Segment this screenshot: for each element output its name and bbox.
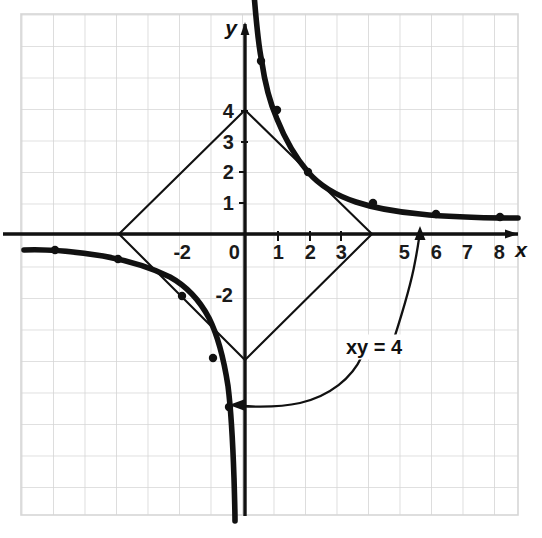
x-tick-label-0: 0 [229, 242, 240, 262]
y-tick-label-neg2: -2 [216, 285, 233, 305]
y-tick-label-4: 4 [223, 101, 234, 121]
curve-equation-label: xy = 4 [342, 335, 406, 360]
graph-canvas [0, 0, 542, 538]
y-axis-label: y [225, 17, 237, 38]
x-tick-label-8: 8 [494, 242, 505, 262]
x-tick-label-2: 2 [305, 242, 316, 262]
y-tick-label-1: 1 [223, 193, 234, 213]
x-tick-label-neg2: -2 [174, 242, 191, 262]
x-axis-label: x [515, 239, 527, 260]
x-tick-label-1: 1 [273, 242, 284, 262]
x-tick-label-5: 5 [399, 242, 410, 262]
graph-figure: -2 0 1 2 3 5 6 7 8 4 3 2 1 -2 x y xy = 4 [0, 0, 542, 538]
y-tick-label-3: 3 [223, 132, 234, 152]
x-tick-label-7: 7 [462, 242, 473, 262]
y-tick-label-2: 2 [223, 162, 234, 182]
x-tick-label-6: 6 [431, 242, 442, 262]
x-tick-label-3: 3 [336, 242, 347, 262]
